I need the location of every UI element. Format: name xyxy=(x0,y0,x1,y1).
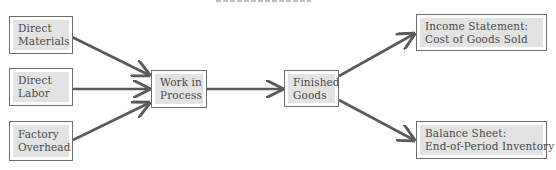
arrow-materials-to-wip xyxy=(72,37,149,75)
node-label: Process xyxy=(160,89,198,102)
arrow-finished-to-income xyxy=(339,34,414,76)
arrow-overhead-to-wip xyxy=(73,103,149,140)
node-balance-sheet: Balance Sheet: End-of-Period Inventory xyxy=(416,121,547,159)
node-label: Income Statement: xyxy=(425,20,538,33)
node-label: Work in xyxy=(160,76,198,89)
node-label: Goods xyxy=(293,89,330,102)
node-label: Direct xyxy=(18,74,64,87)
node-direct-labor: Direct Labor xyxy=(9,68,73,106)
node-label: Finished xyxy=(293,76,330,89)
node-direct-materials: Direct Materials xyxy=(9,16,73,54)
node-label: Direct xyxy=(18,22,64,35)
node-label: Materials xyxy=(18,35,64,48)
node-finished-goods: Finished Goods xyxy=(284,70,339,107)
node-factory-overhead: Factory Overhead xyxy=(9,121,73,161)
node-label: Overhead xyxy=(18,141,64,154)
node-label: Labor xyxy=(18,87,64,100)
node-label: Balance Sheet: xyxy=(425,127,538,140)
node-label: End-of-Period Inventory xyxy=(425,140,538,153)
arrow-finished-to-balance xyxy=(339,100,414,140)
node-label: Factory xyxy=(18,128,64,141)
node-work-in-process: Work in Process xyxy=(151,70,207,108)
node-label: Cost of Goods Sold xyxy=(425,33,538,46)
node-income-statement: Income Statement: Cost of Goods Sold xyxy=(416,14,547,51)
